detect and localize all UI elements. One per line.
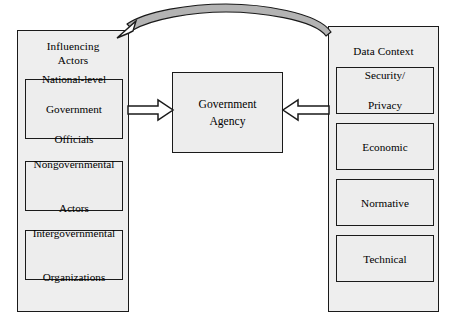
box-national-level-line1: National-level bbox=[26, 72, 122, 87]
box-intergovernmental-organizations: Intergovernmental Organizations bbox=[25, 230, 123, 280]
box-national-level-government-officials: National-level Government Officials bbox=[25, 79, 123, 139]
box-nongovernmental-line1: Nongovernmental bbox=[26, 153, 122, 175]
box-security-privacy: Security/ Privacy bbox=[336, 67, 434, 114]
box-security-privacy-line1: Security/ bbox=[337, 68, 433, 83]
box-nongovernmental-line2: Actors bbox=[26, 197, 122, 219]
box-national-level-line3: Officials bbox=[26, 132, 122, 147]
influencing-actors-panel: Influencing Actors National-level Govern… bbox=[17, 30, 129, 312]
diagram-canvas: Influencing Actors National-level Govern… bbox=[0, 0, 452, 327]
box-security-privacy-line2: Privacy bbox=[337, 98, 433, 113]
arrow-influencing-actors-to-government-agency bbox=[128, 98, 174, 122]
government-agency-line2: Agency bbox=[209, 115, 245, 128]
data-context-panel: Data Context Security/ Privacy Economic … bbox=[328, 26, 439, 312]
box-normative-label: Normative bbox=[337, 197, 433, 209]
box-national-level-line2: Government bbox=[26, 102, 122, 117]
box-normative: Normative bbox=[336, 179, 434, 226]
government-agency-line1: Government bbox=[199, 98, 257, 111]
box-intergovernmental-line1: Intergovernmental bbox=[26, 222, 122, 244]
influencing-actors-title-line2: Actors bbox=[18, 54, 128, 68]
box-nongovernmental-actors: Nongovernmental Actors bbox=[25, 161, 123, 211]
box-technical: Technical bbox=[336, 235, 434, 282]
government-agency-box: Government Agency bbox=[172, 72, 283, 153]
data-context-panel-title: Data Context bbox=[329, 45, 438, 59]
influencing-actors-title-line1: Influencing bbox=[18, 40, 128, 54]
box-technical-label: Technical bbox=[337, 253, 433, 265]
influencing-actors-panel-title: Influencing Actors bbox=[18, 40, 128, 67]
box-intergovernmental-line2: Organizations bbox=[26, 266, 122, 288]
box-economic-label: Economic bbox=[337, 141, 433, 153]
box-economic: Economic bbox=[336, 123, 434, 170]
arrow-data-context-to-government-agency bbox=[282, 98, 330, 122]
